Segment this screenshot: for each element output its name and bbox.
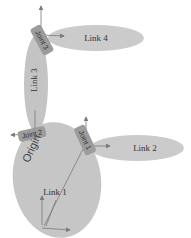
link-2-label: Link 2 xyxy=(133,143,157,153)
link-4-label: Link 4 xyxy=(84,33,108,43)
robot-arm-diagram: Joint 3 Joint 2 Joint 1 Link 4 Link 2 Li… xyxy=(0,0,191,238)
link-3-label: Link 3 xyxy=(29,68,39,92)
link-1-label: Link 1 xyxy=(43,187,67,197)
